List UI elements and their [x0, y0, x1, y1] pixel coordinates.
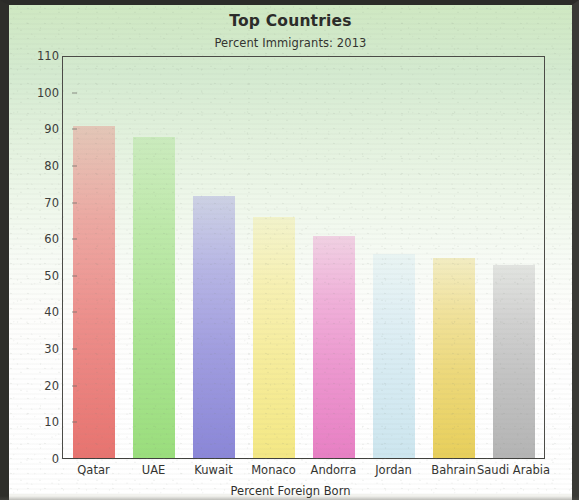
bar-slot [124, 57, 184, 458]
y-tick-30: 30 [25, 342, 59, 356]
bar-series [64, 57, 544, 458]
y-tickmark-50 [72, 275, 77, 276]
bar-slot [304, 57, 364, 458]
bar-uae[interactable] [133, 137, 175, 458]
bar-monaco[interactable] [253, 217, 295, 458]
y-tickmark-10 [72, 422, 77, 423]
bar-slot [364, 57, 424, 458]
chart-title: Top Countries [9, 12, 572, 30]
y-tick-50: 50 [25, 269, 59, 283]
y-tick-110: 110 [25, 49, 59, 63]
y-tick-20: 20 [25, 379, 59, 393]
bar-slot [64, 57, 124, 458]
y-tick-70: 70 [25, 196, 59, 210]
bar-andorra[interactable] [313, 236, 355, 458]
y-tickmark-30 [72, 349, 77, 350]
y-tick-10: 10 [25, 415, 59, 429]
bar-slot [244, 57, 304, 458]
bar-saudi-arabia[interactable] [493, 265, 535, 458]
bar-slot [184, 57, 244, 458]
y-tickmark-90 [72, 129, 77, 130]
chart-canvas: Top Countries Percent Immigrants: 2013 0… [9, 5, 572, 494]
y-tickmark-70 [72, 202, 77, 203]
y-tick-40: 40 [25, 305, 59, 319]
x-axis-title: Percent Foreign Born [9, 484, 572, 498]
y-tickmark-100 [72, 92, 77, 93]
y-tickmark-40 [72, 312, 77, 313]
y-tickmark-20 [72, 385, 77, 386]
bar-slot [424, 57, 484, 458]
x-axis-tick-labels: QatarUAEKuwaitMonacoAndorraJordanBahrain… [64, 463, 544, 483]
bar-kuwait[interactable] [193, 196, 235, 458]
y-tick-100: 100 [25, 86, 59, 100]
chart-subtitle: Percent Immigrants: 2013 [9, 36, 572, 50]
bar-jordan[interactable] [373, 254, 415, 458]
y-axis-tick-labels: 0102030405060708090100110 [19, 56, 59, 459]
x-label-saudi-arabia: Saudi Arabia [463, 463, 565, 477]
y-tick-60: 60 [25, 232, 59, 246]
bar-slot [484, 57, 544, 458]
bar-bahrain[interactable] [433, 258, 475, 459]
y-tickmark-80 [72, 165, 77, 166]
y-tick-80: 80 [25, 159, 59, 173]
scanned-chart-page: Top Countries Percent Immigrants: 2013 0… [0, 0, 579, 500]
y-tickmark-60 [72, 239, 77, 240]
bar-qatar[interactable] [73, 126, 115, 458]
y-tick-90: 90 [25, 122, 59, 136]
